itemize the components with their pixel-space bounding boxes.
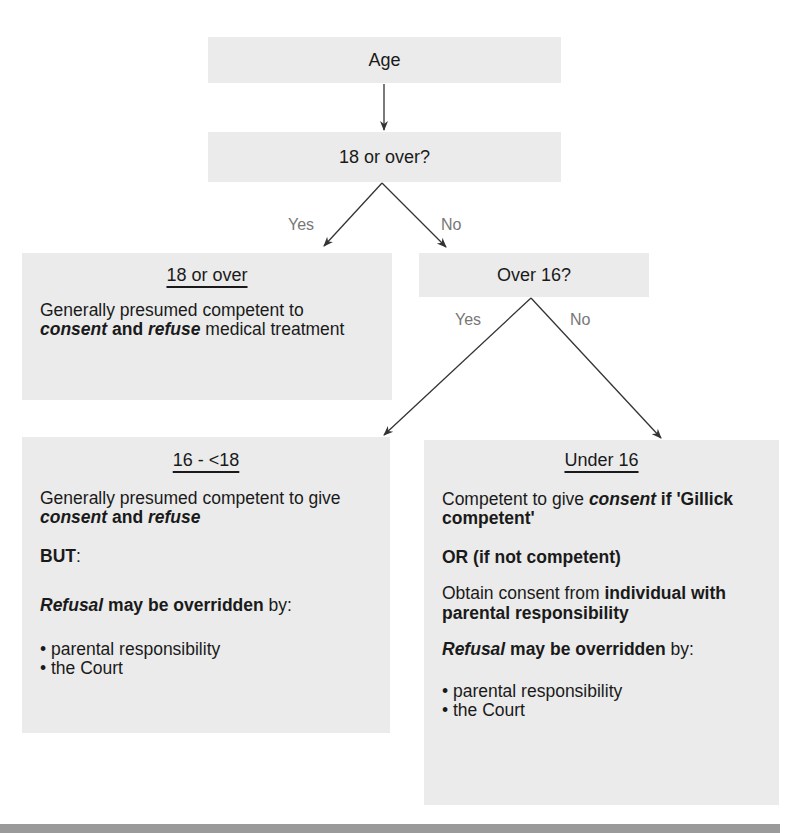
override-list: parental responsibility the Court xyxy=(442,682,761,721)
outcome-heading: 18 or over xyxy=(40,266,374,286)
node-16-question-label: Over 16? xyxy=(497,265,571,286)
outcome-but: BUT: xyxy=(40,547,372,567)
outcome-heading: Under 16 xyxy=(442,451,761,471)
node-18-question-label: 18 or over? xyxy=(339,147,430,168)
edge-label-16-yes: Yes xyxy=(455,311,481,329)
arrow-18-no xyxy=(382,183,446,247)
outcome-text: Generally presumed competent to give con… xyxy=(40,489,372,528)
outcome-refusal: Refusal may be overridden by: xyxy=(40,596,372,616)
footer-divider-bar xyxy=(0,824,780,833)
node-age: Age xyxy=(208,37,561,83)
node-18-or-over-question: 18 or over? xyxy=(208,132,561,182)
list-item: parental responsibility xyxy=(40,640,372,660)
outcome-text: Competent to give consent if 'Gillick co… xyxy=(442,490,761,529)
node-over-16-question: Over 16? xyxy=(419,253,649,297)
arrow-16-no xyxy=(531,298,661,438)
node-under-16-outcome: Under 16 Competent to give consent if 'G… xyxy=(424,440,779,805)
override-list: parental responsibility the Court xyxy=(40,640,372,679)
outcome-heading: 16 - <18 xyxy=(40,451,372,471)
list-item: the Court xyxy=(442,701,761,721)
edge-label-18-no: No xyxy=(441,216,461,234)
list-item: parental responsibility xyxy=(442,682,761,702)
node-18-or-over-outcome: 18 or over Generally presumed competent … xyxy=(22,253,392,400)
list-item: the Court xyxy=(40,659,372,679)
outcome-obtain-consent: Obtain consent from individual with pare… xyxy=(442,584,761,623)
node-16-to-18-outcome: 16 - <18 Generally presumed competent to… xyxy=(22,437,390,733)
edge-label-16-no: No xyxy=(570,311,590,329)
arrow-18-yes xyxy=(324,183,382,246)
outcome-refusal: Refusal may be overridden by: xyxy=(442,640,761,660)
outcome-text: Generally presumed competent to consent … xyxy=(40,301,374,340)
outcome-or: OR (if not competent) xyxy=(442,548,761,568)
edge-label-18-yes: Yes xyxy=(288,216,314,234)
node-age-label: Age xyxy=(368,50,400,71)
